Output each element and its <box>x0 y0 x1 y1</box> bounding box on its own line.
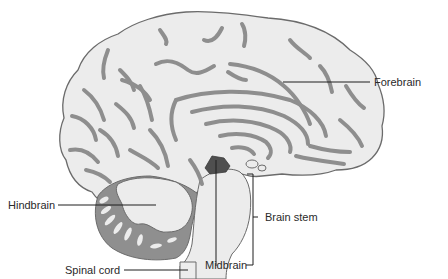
spinal-cord-label: Spinal cord <box>65 264 120 276</box>
brain-stem-label: Brain stem <box>265 211 318 223</box>
forebrain-label: Forebrain <box>374 76 421 88</box>
brain-illustration <box>0 0 448 279</box>
pineal-detail <box>246 160 258 168</box>
midbrain-label: Midbrain <box>205 259 247 271</box>
hindbrain-label: Hindbrain <box>8 199 55 211</box>
brain-diagram: Forebrain Hindbrain Brain stem Midbrain … <box>0 0 448 279</box>
pituitary-detail <box>258 165 266 171</box>
